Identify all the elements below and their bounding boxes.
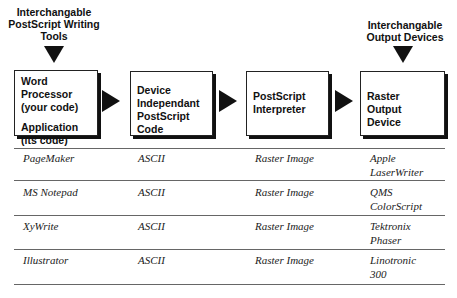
- table-cell-device: Linotronic 300: [370, 253, 416, 281]
- table-cell-device: Apple LaserWriter: [370, 151, 423, 179]
- box-postscript-interpreter: PostScript Interpreter: [246, 71, 329, 136]
- box-line: Interpreter: [253, 103, 322, 116]
- label-line: Interchangable: [2, 6, 106, 18]
- table-cell-code: ASCII: [138, 151, 165, 165]
- box-line: Device: [137, 84, 206, 97]
- box-line: Application: [21, 121, 91, 134]
- device-line: Apple: [370, 151, 423, 165]
- table-cell-code: ASCII: [138, 185, 165, 199]
- table-divider: [14, 284, 445, 285]
- table-cell-output: Raster Image: [255, 151, 314, 165]
- device-line: ColorScript: [370, 199, 422, 213]
- box-device-independent-code: Device Independant PostScript Code: [130, 71, 213, 136]
- table-cell-device: QMS ColorScript: [370, 185, 422, 213]
- writing-tools-label: Interchangable PostScript Writing Tools: [2, 6, 106, 42]
- output-devices-label: Interchangable Output Devices: [355, 19, 455, 43]
- device-line: Phaser: [370, 233, 411, 247]
- arrow-right-icon: [102, 90, 120, 112]
- table-divider: [14, 180, 445, 181]
- table-divider: [14, 249, 445, 250]
- box-line: PostScript Code: [137, 110, 206, 136]
- arrow-down-icon: [393, 46, 413, 63]
- box-line: (your code): [21, 101, 91, 114]
- table-cell-output: Raster Image: [255, 253, 314, 267]
- box-line: Independant: [137, 97, 206, 110]
- table-divider: [14, 148, 445, 149]
- table-cell-code: ASCII: [138, 253, 165, 267]
- box-line: Raster: [367, 90, 438, 103]
- table-cell-tool: Illustrator: [23, 253, 68, 267]
- arrow-right-icon: [219, 90, 237, 112]
- device-line: Tektronix: [370, 219, 411, 233]
- table-cell-code: ASCII: [138, 219, 165, 233]
- table-cell-tool: XyWrite: [23, 219, 58, 233]
- device-line: LaserWriter: [370, 165, 423, 179]
- label-line: Tools: [2, 30, 106, 42]
- device-line: Linotronic: [370, 253, 416, 267]
- box-line: Word Processor: [21, 75, 91, 101]
- box-line: Output Device: [367, 103, 438, 129]
- label-line: Output Devices: [355, 31, 455, 43]
- table-cell-tool: PageMaker: [23, 151, 74, 165]
- table-cell-output: Raster Image: [255, 185, 314, 199]
- table-cell-tool: MS Notepad: [23, 185, 78, 199]
- table-cell-output: Raster Image: [255, 219, 314, 233]
- arrow-down-icon: [44, 46, 64, 63]
- box-word-processor: Word Processor (your code) Application (…: [14, 70, 98, 136]
- box-raster-output-device: Raster Output Device: [360, 71, 445, 136]
- device-line: QMS: [370, 185, 422, 199]
- box-line: (its code): [21, 134, 91, 147]
- table-divider: [14, 215, 445, 216]
- box-spacer: [21, 114, 91, 121]
- label-line: Interchangable: [355, 19, 455, 31]
- box-line: PostScript: [253, 90, 322, 103]
- table-cell-device: Tektronix Phaser: [370, 219, 411, 247]
- label-line: PostScript Writing: [2, 18, 106, 30]
- arrow-right-icon: [335, 90, 353, 112]
- device-line: 300: [370, 267, 416, 281]
